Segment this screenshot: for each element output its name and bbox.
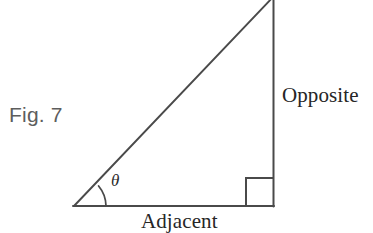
right-angle-marker <box>246 178 274 206</box>
opposite-label: Opposite <box>282 85 359 106</box>
figure-caption: Fig. 7 <box>9 104 63 125</box>
adjacent-label: Adjacent <box>141 211 218 232</box>
figure-canvas: Fig. 7 Opposite Adjacent θ <box>0 0 373 233</box>
hypotenuse-line <box>74 0 274 206</box>
theta-angle-label: θ <box>111 172 119 189</box>
angle-arc <box>99 186 106 206</box>
